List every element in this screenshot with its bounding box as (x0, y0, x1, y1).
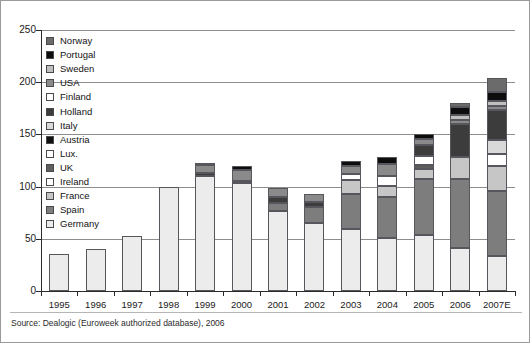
bar-2006[interactable] (450, 103, 470, 291)
legend-item-label: Ireland (60, 177, 89, 187)
legend-item-sweden[interactable]: Sweden (46, 62, 132, 76)
legend-item-label: Portugal (60, 50, 95, 60)
legend-item-usa[interactable]: USA (46, 76, 132, 90)
bar-2000[interactable] (232, 166, 252, 291)
x-tick-label: 2005 (406, 299, 442, 310)
y-tick-label: 100 (6, 182, 36, 192)
bar-segment-spain (268, 203, 288, 210)
legend-item-finland[interactable]: Finland (46, 90, 132, 104)
bar-segment-lux (414, 156, 434, 164)
bar-1995[interactable] (49, 254, 69, 291)
legend-item-france[interactable]: France (46, 189, 132, 203)
y-tick-label: 150 (6, 129, 36, 139)
bar-segment-germany (49, 254, 69, 291)
y-tick-label: 250 (6, 25, 36, 35)
bar-segment-uk (414, 165, 434, 169)
legend-swatch-icon (46, 79, 54, 87)
bar-2004[interactable] (377, 157, 397, 291)
legend-item-austria[interactable]: Austria (46, 133, 132, 147)
bar-segment-spain (377, 197, 397, 238)
legend-item-label: UK (60, 163, 73, 173)
x-axis-line (41, 291, 516, 292)
bar-1996[interactable] (86, 249, 106, 291)
bar-segment-germany (377, 238, 397, 291)
x-tick-label: 2006 (442, 299, 478, 310)
bar-segment-germany (304, 223, 324, 291)
y-tick-label: 50 (6, 234, 36, 244)
bar-segment-holland (450, 124, 470, 157)
legend-item-lux[interactable]: Lux. (46, 147, 132, 161)
bar-segment-germany (122, 236, 142, 291)
y-tick-label: 200 (6, 77, 36, 87)
bar-segment-portugal (232, 166, 252, 170)
bar-segment-sweden (450, 115, 470, 120)
bar-2001[interactable] (268, 188, 288, 291)
bar-segment-germany (232, 183, 252, 291)
legend-item-spain[interactable]: Spain (46, 203, 132, 217)
x-tick-label: 2001 (260, 299, 296, 310)
y-tick-label: 0 (6, 286, 36, 296)
legend-swatch-icon (46, 192, 54, 200)
legend-swatch-icon (46, 136, 54, 144)
bar-2005[interactable] (414, 134, 434, 291)
bar-2007E[interactable] (487, 78, 507, 291)
x-tick-label: 2007E (479, 299, 515, 310)
bar-2003[interactable] (341, 161, 361, 292)
legend-swatch-icon (46, 51, 54, 59)
legend-item-label: Sweden (60, 64, 94, 74)
bar-segment-norway (487, 78, 507, 92)
bar-segment-portugal (341, 161, 361, 166)
bar-segment-ireland (377, 176, 397, 185)
legend-item-italy[interactable]: Italy (46, 119, 132, 133)
legend-item-label: Spain (60, 205, 84, 215)
bar-segment-usa (341, 166, 361, 174)
bar-segment-portugal (377, 157, 397, 163)
legend-item-label: Austria (60, 135, 90, 145)
bar-segment-usa (304, 194, 324, 202)
bar-segment-spain (304, 207, 324, 223)
bar-segment-holland (232, 181, 252, 183)
bar-segment-germany (450, 248, 470, 291)
bar-segment-portugal (195, 163, 215, 165)
bar-segment-germany (414, 235, 434, 291)
x-tick-label: 2002 (296, 299, 332, 310)
legend-item-label: Finland (60, 92, 91, 102)
legend-item-holland[interactable]: Holland (46, 104, 132, 118)
bar-segment-ireland (341, 174, 361, 180)
bar-2002[interactable] (304, 194, 324, 291)
bar-segment-spain (414, 179, 434, 234)
legend-item-uk[interactable]: UK (46, 161, 132, 175)
bar-segment-usa (487, 106, 507, 110)
bar-segment-portugal (414, 134, 434, 138)
legend-swatch-icon (46, 122, 54, 130)
bar-segment-usa (450, 120, 470, 124)
x-tick-label: 2000 (223, 299, 259, 310)
bar-segment-france (414, 169, 434, 179)
bar-segment-usa (414, 139, 434, 145)
legend-item-ireland[interactable]: Ireland (46, 175, 132, 189)
source-note: Source: Dealogic (Euroweek authorized da… (11, 318, 225, 328)
legend-swatch-icon (46, 220, 54, 228)
legend-item-label: Germany (60, 219, 99, 229)
bar-segment-germany (487, 256, 507, 291)
bar-1997[interactable] (122, 236, 142, 291)
legend-item-portugal[interactable]: Portugal (46, 48, 132, 62)
bar-segment-usa (232, 170, 252, 181)
bar-segment-holland (195, 173, 215, 176)
legend-item-label: Norway (60, 36, 92, 46)
y-axis-line (41, 30, 42, 292)
bar-1999[interactable] (195, 164, 215, 291)
legend-item-norway[interactable]: Norway (46, 34, 132, 48)
bar-segment-holland (268, 197, 288, 203)
legend-swatch-icon (46, 108, 54, 116)
legend-swatch-icon (46, 93, 54, 101)
bar-1998[interactable] (159, 187, 179, 291)
bar-segment-sweden (487, 101, 507, 106)
footer-divider (10, 312, 522, 313)
legend-item-germany[interactable]: Germany (46, 217, 132, 231)
bar-segment-spain (487, 191, 507, 256)
x-tick-label: 2004 (369, 299, 405, 310)
legend-swatch-icon (46, 178, 54, 186)
bar-segment-italy (487, 140, 507, 155)
bar-segment-germany (86, 249, 106, 291)
